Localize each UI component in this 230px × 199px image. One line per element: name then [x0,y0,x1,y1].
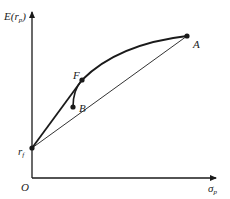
point-F [79,77,84,82]
y-axis-label: E(rp) [3,10,26,24]
label-F: F [72,69,80,81]
origin-label: O [21,181,29,193]
x-axis-label: σp [208,182,217,196]
point-A [184,33,189,38]
line-rf-to-F [32,80,82,148]
point-rf [29,145,34,150]
portfolio-diagram: E(rp) σp O rf F B A [0,0,230,199]
label-rf: rf [18,145,25,159]
label-A: A [192,38,200,50]
label-B: B [79,102,86,114]
line-rf-to-A [32,36,187,148]
point-B [70,104,75,109]
